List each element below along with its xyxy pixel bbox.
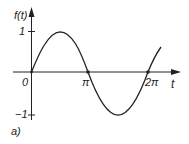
point-origin (30, 71, 33, 74)
x-axis-label: t (171, 78, 174, 90)
origin-label: 0 (22, 77, 28, 88)
x-axis-arrow-icon (171, 69, 181, 75)
y-tick-label-1: 1 (19, 26, 25, 37)
y-axis-arrow-icon (29, 7, 35, 17)
point-pi (86, 70, 90, 74)
sine-curve (32, 32, 162, 115)
sine-chart (0, 0, 189, 144)
y-tick-label-minus-1: −1 (15, 109, 28, 120)
x-tick-label-2pi: 2π (145, 77, 159, 88)
panel-label: a) (11, 126, 21, 137)
x-tick-label-pi: π (82, 77, 89, 88)
y-axis-label: f(t) (14, 10, 27, 21)
point-2pi (146, 70, 150, 74)
